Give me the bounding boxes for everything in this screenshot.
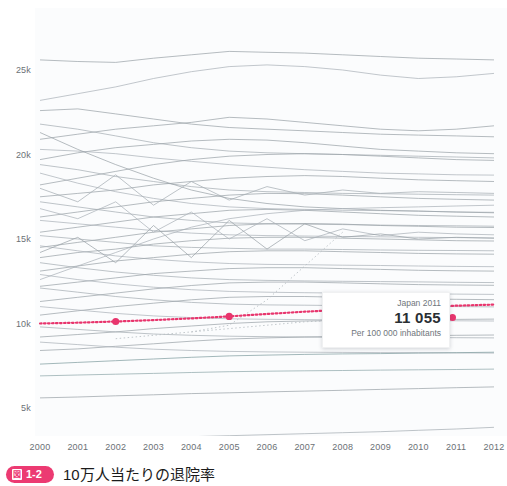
series-line — [40, 268, 494, 287]
x-tick-label: 2006 — [257, 442, 278, 452]
highlight-marker[interactable] — [226, 313, 233, 320]
y-axis: 25k20k15k10k5k — [0, 8, 35, 436]
x-tick-label: 2009 — [370, 442, 391, 452]
x-tick-label: 2011 — [446, 442, 466, 452]
x-tick-label: 2012 — [484, 442, 505, 452]
series-line — [40, 369, 494, 376]
screenshot-root: 25k20k15k10k5k 2000200120022003200420052… — [0, 0, 507, 486]
caption-text: 10万人当たりの退院率 — [63, 466, 215, 483]
y-tick-label: 25k — [16, 65, 31, 75]
x-tick-label: 2001 — [67, 442, 88, 452]
tooltip-subtitle: Per 100 000 inhabitants — [329, 327, 441, 339]
x-tick-label: 2008 — [332, 442, 353, 452]
series-line — [40, 387, 494, 398]
badge-number-label: 1-2 — [26, 468, 42, 481]
series-line — [40, 109, 494, 137]
badge-kanji-label: 図 — [12, 469, 22, 480]
x-tick-label: 2005 — [219, 442, 240, 452]
highlight-point-2011 — [449, 314, 456, 321]
series-line — [40, 117, 494, 139]
y-tick-label: 10k — [16, 319, 31, 329]
series-canvas — [35, 8, 507, 436]
x-tick-label: 2003 — [143, 442, 164, 452]
series-line — [40, 427, 494, 436]
series-line — [40, 352, 494, 364]
x-tick-label: 2010 — [408, 442, 429, 452]
figure-caption: 図 1-2 10万人当たりの退院率 — [0, 462, 507, 486]
y-tick-label: 5k — [21, 403, 31, 413]
highlight-marker[interactable] — [112, 318, 119, 325]
x-tick-label: 2004 — [181, 442, 202, 452]
figure-badge: 図 1-2 — [6, 466, 54, 483]
plot-area — [35, 8, 507, 436]
y-tick-label: 15k — [16, 234, 31, 244]
series-line — [40, 51, 494, 62]
x-axis: 2000200120022003200420052006200720082009… — [0, 440, 507, 462]
y-tick-label: 20k — [16, 150, 31, 160]
x-tick-label: 2002 — [105, 442, 126, 452]
series-line — [40, 65, 494, 101]
series-line — [40, 205, 494, 279]
x-tick-label: 2000 — [30, 442, 51, 452]
tooltip-value: 11 055 — [329, 309, 441, 327]
tooltip-title: Japan 2011 — [329, 298, 441, 309]
x-tick-label: 2007 — [294, 442, 315, 452]
line-chart: 25k20k15k10k5k 2000200120022003200420052… — [0, 0, 507, 440]
tooltip[interactable]: Japan 2011 11 055 Per 100 000 inhabitant… — [322, 292, 450, 348]
series-line — [40, 209, 494, 232]
